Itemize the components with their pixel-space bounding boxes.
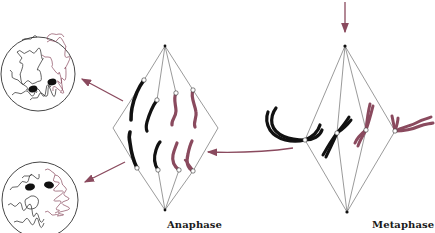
anaphase-top-pole bbox=[164, 45, 167, 48]
anaphase-centromere bbox=[174, 91, 178, 95]
metaphase-chromosome-4 bbox=[392, 116, 433, 131]
arrow-metaphase-to-anaphase bbox=[208, 148, 293, 152]
anaphase-centromere bbox=[142, 78, 146, 82]
anaphase-spindle bbox=[113, 46, 218, 210]
anaphase-centromere bbox=[155, 98, 159, 102]
anaphase-label: Anaphase bbox=[167, 219, 222, 230]
metaphase-top-pole bbox=[343, 44, 346, 47]
metaphase-bottom-pole bbox=[345, 210, 348, 213]
metaphase-chromosome-1 bbox=[267, 108, 322, 141]
metaphase-label: Metaphase bbox=[372, 219, 434, 230]
anaphase-centromere bbox=[135, 166, 139, 170]
metaphase-centromere bbox=[364, 128, 368, 132]
anaphase-lower-chromatids bbox=[129, 132, 193, 171]
anaphase-bottom-pole bbox=[164, 209, 167, 212]
mitosis-diagram: Anaphase Metaphase bbox=[0, 0, 435, 233]
metaphase-centromere bbox=[335, 131, 339, 135]
arrow-anaphase-to-top-nucleus bbox=[82, 79, 123, 101]
daughter-nucleus-bottom bbox=[2, 162, 78, 233]
metaphase-chromosome-2 bbox=[323, 117, 351, 157]
daughter-nucleus-top bbox=[1, 34, 75, 111]
arrow-anaphase-to-bottom-nucleus bbox=[85, 162, 125, 182]
anaphase-centromere bbox=[156, 168, 160, 172]
anaphase-upper-chromatids bbox=[131, 80, 196, 131]
metaphase-centromere bbox=[303, 138, 307, 142]
anaphase-centromere bbox=[191, 88, 195, 92]
anaphase-centromere bbox=[191, 169, 195, 173]
anaphase-centromere bbox=[177, 168, 181, 172]
metaphase-centromere bbox=[393, 129, 397, 133]
